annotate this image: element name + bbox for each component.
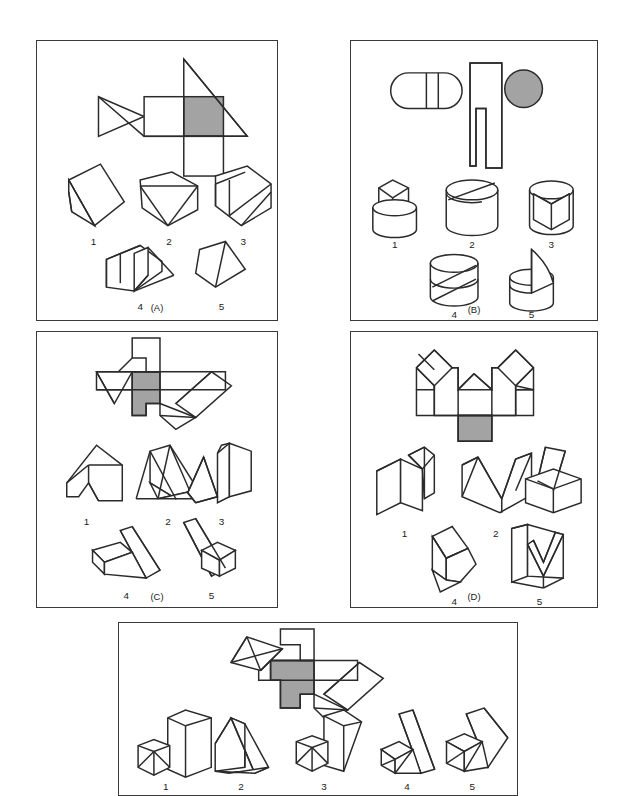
panel-b-option-5: 5 — [510, 249, 554, 319]
panel-a-option-1: 1 — [69, 164, 125, 247]
option-label: 2 — [469, 239, 475, 250]
option-label: 4 — [451, 309, 457, 320]
panel-a: 1 2 3 4 — [36, 40, 278, 321]
panel-c-option-4: 4 — [93, 527, 160, 601]
panel-b-pattern — [391, 63, 543, 168]
panel-c-option-5: 5 — [184, 519, 236, 601]
option-label: 1 — [402, 528, 408, 539]
panel-e-pattern — [231, 629, 383, 722]
option-label: 2 — [493, 528, 499, 539]
option-label: 5 — [209, 590, 215, 601]
option-label: 3 — [241, 236, 247, 247]
panel-d-pattern — [416, 350, 533, 441]
option-label: 5 — [537, 596, 543, 607]
panel-caption: (D) — [467, 591, 480, 602]
option-label: 4 — [123, 590, 129, 601]
option-label: 3 — [549, 239, 555, 250]
panel-d: 1 2 3 — [350, 331, 598, 608]
panel-e-option-3: 3 — [296, 710, 361, 792]
panel-a-option-5: 5 — [196, 241, 246, 311]
option-label: 4 — [451, 596, 457, 607]
panel-d-option-3: 3 — [526, 447, 582, 539]
panel-a-option-4: 4 — [106, 245, 173, 311]
option-label: 2 — [238, 781, 244, 792]
panel-d-option-5: 5 — [512, 525, 564, 607]
option-label: 2 — [165, 516, 171, 527]
panel-b: 1 2 3 4 — [350, 40, 598, 321]
option-label: 1 — [163, 781, 169, 792]
panel-e: 1 2 3 — [118, 622, 518, 796]
panel-b-option-2: 2 — [446, 180, 498, 250]
panel-e-option-4: 4 — [381, 710, 434, 792]
option-label: 1 — [84, 516, 90, 527]
option-label: 3 — [321, 781, 327, 792]
panel-caption: (A) — [151, 302, 164, 313]
panel-b-option-3: 3 — [530, 181, 574, 250]
panel-caption: (B) — [468, 304, 481, 315]
option-label: 1 — [91, 236, 97, 247]
option-label: 1 — [392, 239, 398, 250]
option-label: 5 — [469, 781, 475, 792]
panel-c-pattern — [97, 338, 232, 429]
panel-a-pattern — [98, 59, 247, 176]
panel-e-option-5: 5 — [447, 708, 508, 792]
panel-c-option-1: 1 — [67, 445, 123, 527]
panel-c: 1 2 3 — [36, 331, 278, 608]
panel-d-option-1: 1 — [377, 447, 435, 539]
option-label: 3 — [219, 516, 225, 527]
option-label: 5 — [529, 309, 535, 320]
option-label: 2 — [166, 236, 172, 247]
panel-b-option-1: 1 — [373, 180, 417, 250]
panel-e-option-2: 2 — [215, 718, 268, 792]
panel-e-option-1: 1 — [138, 710, 211, 792]
panel-caption: (C) — [150, 591, 163, 602]
panel-a-option-3: 3 — [216, 166, 272, 247]
option-label: 4 — [404, 781, 410, 792]
panel-a-option-2: 2 — [140, 172, 198, 247]
panel-c-option-3: 3 — [188, 443, 251, 527]
option-label: 5 — [219, 301, 225, 312]
option-label: 4 — [137, 301, 143, 312]
